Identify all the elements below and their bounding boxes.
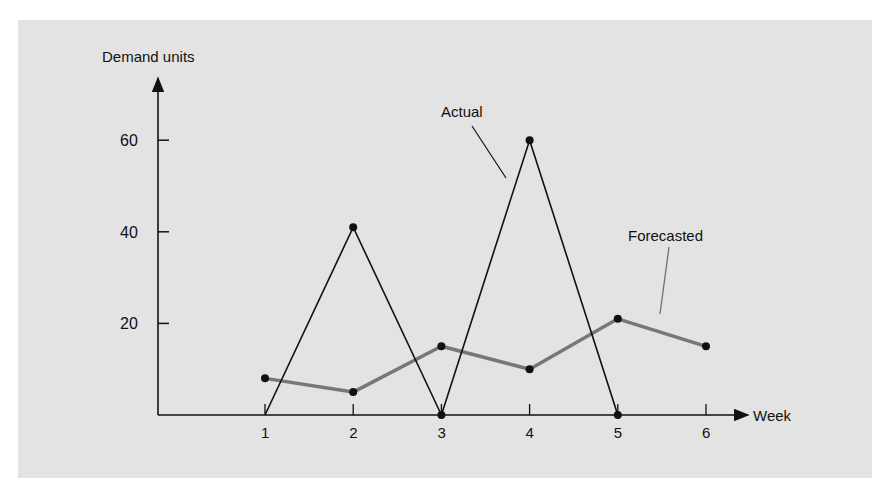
data-point-forecasted bbox=[261, 374, 269, 382]
x-tick-label: 5 bbox=[614, 424, 622, 441]
callout-line-actual bbox=[472, 126, 506, 178]
data-point-actual bbox=[614, 411, 622, 419]
callout-line-forecasted bbox=[660, 247, 669, 314]
x-tick-label: 3 bbox=[437, 424, 445, 441]
data-point-forecasted bbox=[437, 342, 445, 350]
annotation-actual: Actual bbox=[441, 103, 483, 120]
data-point-actual bbox=[437, 411, 445, 419]
x-axis-label: Week bbox=[753, 407, 792, 424]
series-group bbox=[261, 136, 710, 419]
y-ticks: 204060 bbox=[120, 132, 169, 332]
x-tick-label: 4 bbox=[526, 424, 534, 441]
x-ticks: 123456 bbox=[261, 404, 710, 441]
annotation-forecasted: Forecasted bbox=[628, 227, 703, 244]
y-tick-label: 60 bbox=[120, 132, 138, 149]
x-tick-label: 1 bbox=[261, 424, 269, 441]
data-point-forecasted bbox=[526, 365, 534, 373]
x-tick-label: 6 bbox=[702, 424, 710, 441]
data-point-actual bbox=[349, 223, 357, 231]
y-axis-label: Demand units bbox=[102, 48, 195, 65]
y-tick-label: 20 bbox=[120, 315, 138, 332]
series-line-actual bbox=[265, 140, 618, 415]
x-tick-label: 2 bbox=[349, 424, 357, 441]
data-point-actual bbox=[526, 136, 534, 144]
line-chart: Demand units Week 204060 123456 Actual F… bbox=[0, 0, 888, 486]
series-line-forecasted bbox=[265, 319, 706, 392]
data-point-forecasted bbox=[349, 388, 357, 396]
y-tick-label: 40 bbox=[120, 224, 138, 241]
data-point-forecasted bbox=[614, 315, 622, 323]
data-point-forecasted bbox=[702, 342, 710, 350]
